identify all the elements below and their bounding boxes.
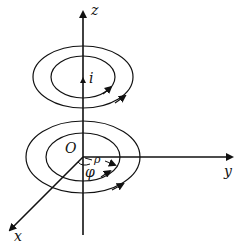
x-axis — [10, 157, 83, 230]
rho-indicator — [105, 161, 115, 165]
current-label: i — [89, 70, 93, 86]
z-axis-label: z — [90, 2, 99, 18]
x-axis-label: x — [14, 228, 22, 243]
phi-label: φ — [85, 164, 95, 180]
current-arrow-icon — [80, 77, 86, 83]
origin-label: O — [65, 140, 77, 156]
y-axis-label: y — [223, 163, 233, 179]
diagram-canvas: z i O y x ρ φ — [0, 0, 237, 243]
rho-indicator — [85, 158, 92, 160]
loop-arrow-icon — [103, 87, 111, 94]
